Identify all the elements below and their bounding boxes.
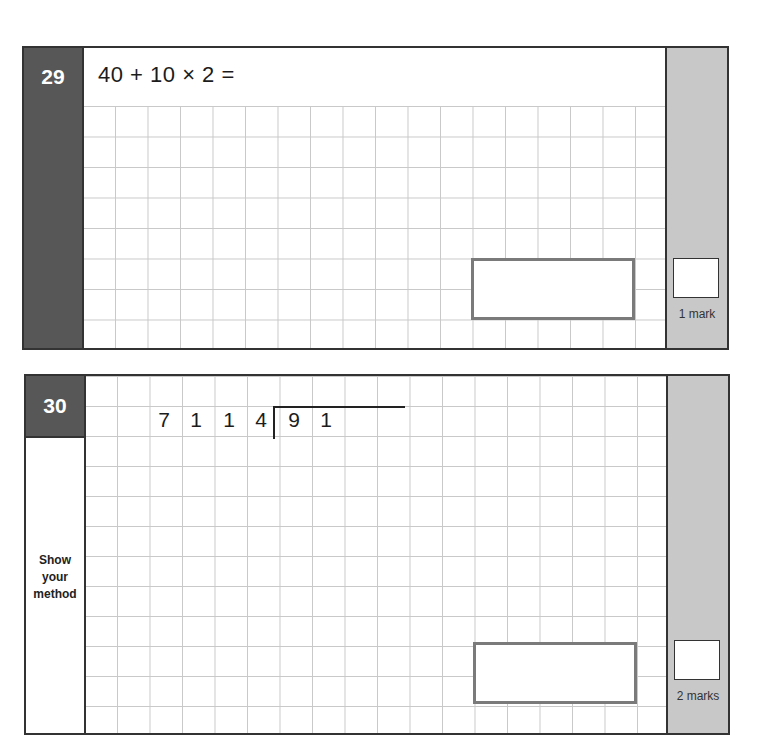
question-number: 30 bbox=[26, 376, 84, 438]
marks-column: 2 marks bbox=[666, 376, 728, 733]
answer-box[interactable] bbox=[473, 642, 637, 704]
show-method-line: your bbox=[26, 569, 84, 586]
marks-column: 1 mark bbox=[665, 48, 727, 348]
divisor-digit: 1 bbox=[180, 408, 212, 432]
marks-label: 1 mark bbox=[667, 307, 727, 321]
question-number: 29 bbox=[24, 48, 82, 106]
mark-box bbox=[673, 258, 719, 298]
question-number-column: 29 bbox=[24, 48, 84, 348]
show-method-line: method bbox=[26, 586, 84, 603]
mark-box bbox=[674, 640, 720, 680]
dividend-digit: 1 bbox=[310, 408, 342, 432]
dividend-digit: 9 bbox=[278, 408, 310, 432]
dividend-digit: 4 bbox=[245, 408, 277, 432]
show-your-method-label: Show your method bbox=[26, 552, 84, 603]
question-29-panel: 29 40 + 10 × 2 = 1 mark bbox=[22, 46, 729, 350]
divisor-digit: 7 bbox=[148, 408, 180, 432]
working-area: 40 + 10 × 2 = bbox=[84, 48, 665, 348]
show-method-line: Show bbox=[26, 552, 84, 569]
marks-label: 2 marks bbox=[668, 689, 728, 703]
dividend-digit: 1 bbox=[213, 408, 245, 432]
answer-box[interactable] bbox=[471, 258, 635, 320]
question-prompt: 40 + 10 × 2 = bbox=[98, 62, 235, 88]
question-number-column: 30 Show your method bbox=[26, 376, 86, 733]
question-30-panel: 30 Show your method 7 1 1 4 9 1 2 marks bbox=[24, 374, 730, 735]
working-area: 7 1 1 4 9 1 bbox=[86, 376, 666, 733]
